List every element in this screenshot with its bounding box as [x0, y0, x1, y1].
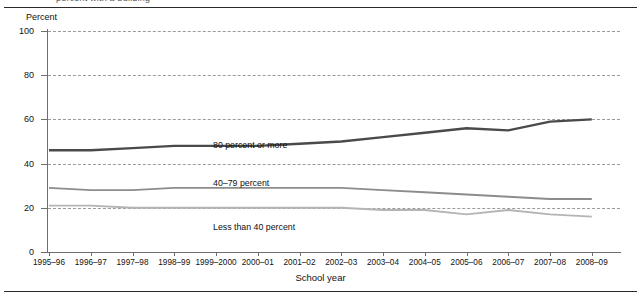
x-tick-5: [258, 252, 259, 256]
x-tick-label-10: 2005–06: [451, 258, 483, 267]
x-tick-label-11: 2006–07: [492, 258, 524, 267]
x-tick-label-12: 2007–08: [534, 258, 566, 267]
y-tick-label-40: 40: [0, 159, 34, 169]
series-label-40-79: 40–79 percent: [213, 178, 269, 188]
x-tick-label-9: 2004–05: [409, 258, 441, 267]
y-tick-label-60: 60: [0, 114, 34, 124]
x-tick-label-7: 2002–03: [325, 258, 357, 267]
x-tick-label-13: 2008–09: [576, 258, 608, 267]
clipped-caption-region: percent with a building: [0, 0, 641, 7]
x-tick-8: [383, 252, 384, 256]
clipped-caption-text: percent with a building: [56, 0, 150, 3]
series-label-80-or-more: 80 percent or more: [213, 140, 287, 150]
x-tick-10: [467, 252, 468, 256]
x-axis-title: School year: [0, 272, 641, 283]
x-tick-6: [300, 252, 301, 256]
x-tick-2: [133, 252, 134, 256]
x-tick-12: [550, 252, 551, 256]
chart-page: percent with a building Percent 02040608…: [0, 0, 641, 300]
x-tick-4: [216, 252, 217, 256]
series-label-less-than-40: Less than 40 percent: [213, 222, 295, 232]
x-tick-label-6: 2001–02: [284, 258, 316, 267]
line-80-or-more: [49, 119, 592, 150]
y-tick-label-80: 80: [0, 70, 34, 80]
x-tick-0: [49, 252, 50, 256]
x-tick-11: [508, 252, 509, 256]
x-tick-3: [174, 252, 175, 256]
x-tick-label-5: 2000–01: [242, 258, 274, 267]
x-tick-label-0: 1995–96: [33, 258, 65, 267]
y-tick-label-20: 20: [0, 203, 34, 213]
line-less-than-40: [49, 206, 592, 217]
x-tick-1: [91, 252, 92, 256]
x-tick-label-1: 1996–97: [75, 258, 107, 267]
x-tick-13: [592, 252, 593, 256]
x-tick-label-4: 1999–2000: [196, 258, 237, 267]
top-divider-rule: [4, 7, 637, 8]
series-lines: [48, 31, 620, 252]
y-tick-label-0: 0: [0, 247, 34, 257]
y-tick-label-100: 100: [0, 26, 34, 36]
x-tick-label-2: 1997–98: [117, 258, 149, 267]
x-tick-7: [341, 252, 342, 256]
x-tick-9: [425, 252, 426, 256]
x-tick-label-8: 2003–04: [367, 258, 399, 267]
bottom-divider-rule: [4, 291, 637, 292]
y-axis-title: Percent: [26, 12, 57, 22]
x-tick-label-3: 1998–99: [158, 258, 190, 267]
line-40-79: [49, 188, 592, 199]
